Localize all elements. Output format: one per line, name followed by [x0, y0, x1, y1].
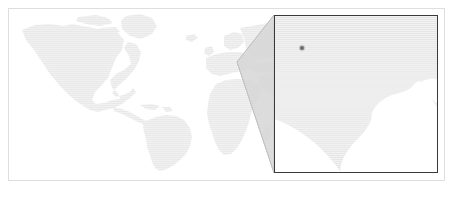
inset-raster-texture: [275, 16, 437, 172]
inset-map-shapes: [275, 16, 437, 172]
figure-root: [0, 0, 454, 198]
zoom-inset-panel[interactable]: [274, 15, 438, 173]
